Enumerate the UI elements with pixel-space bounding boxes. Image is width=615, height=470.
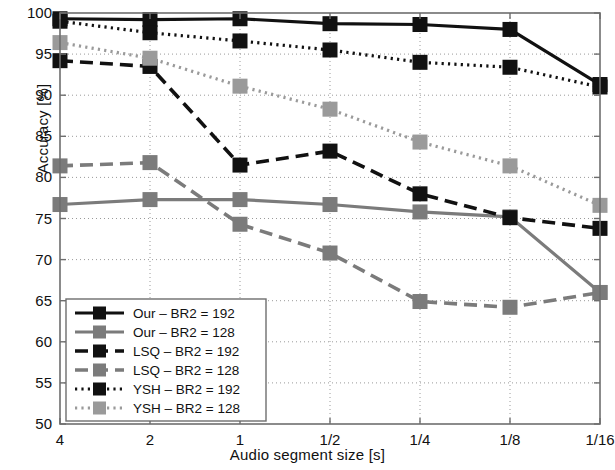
data-point-marker [323, 246, 338, 261]
legend-marker-sample [93, 345, 106, 358]
legend-marker-sample [93, 307, 106, 320]
data-point-marker [503, 22, 518, 37]
data-point-marker [323, 144, 338, 159]
data-series [53, 155, 608, 315]
data-point-marker [233, 217, 248, 232]
data-point-marker [503, 158, 518, 173]
y-tick-label: 65 [35, 292, 52, 309]
y-tick-label: 55 [35, 374, 52, 391]
data-point-marker [233, 79, 248, 94]
data-point-marker [503, 210, 518, 225]
legend-label: YSH – BR2 = 192 [133, 382, 240, 397]
legend-label: YSH – BR2 = 128 [133, 401, 240, 416]
legend-label: LSQ – BR2 = 192 [133, 344, 239, 359]
legend-marker-sample [93, 402, 106, 415]
chart-figure: 50556065707580859095100 4211/21/41/81/16… [0, 0, 615, 470]
legend-label: Our – BR2 = 192 [133, 306, 235, 321]
y-tick-label: 60 [35, 333, 52, 350]
data-point-marker [323, 102, 338, 117]
data-point-marker [143, 51, 158, 66]
chart-legend: Our – BR2 = 192Our – BR2 = 128LSQ – BR2 … [66, 299, 266, 421]
y-tick-label: 100 [27, 4, 52, 21]
y-tick-label: 70 [35, 251, 52, 268]
legend-marker-sample [93, 364, 106, 377]
data-point-marker [323, 197, 338, 212]
data-point-marker [233, 192, 248, 207]
x-axis-title: Audio segment size [s] [0, 446, 615, 463]
data-point-marker [413, 17, 428, 32]
legend-marker-sample [93, 326, 106, 339]
legend-marker-sample [93, 383, 106, 396]
data-point-marker [503, 300, 518, 315]
data-point-marker [143, 25, 158, 40]
legend-label: Our – BR2 = 128 [133, 325, 235, 340]
data-point-marker [413, 294, 428, 309]
data-point-marker [143, 155, 158, 170]
legend-label: LSQ – BR2 = 128 [133, 363, 239, 378]
data-point-marker [413, 135, 428, 150]
data-point-marker [413, 55, 428, 70]
data-point-marker [413, 204, 428, 219]
data-point-marker [233, 33, 248, 48]
data-point-marker [323, 42, 338, 57]
data-point-marker [413, 186, 428, 201]
y-axis-title: Accuracy [%] [34, 29, 51, 229]
data-point-marker [503, 60, 518, 75]
accuracy-line-chart: 50556065707580859095100 4211/21/41/81/16… [0, 0, 615, 470]
data-point-marker [143, 192, 158, 207]
data-point-marker [233, 158, 248, 173]
y-tick-label: 50 [35, 415, 52, 432]
